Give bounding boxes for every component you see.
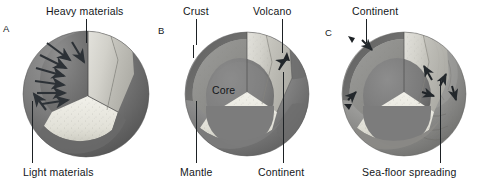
earth-evolution-figure: A B C Heavy materials Light materials Cr… — [0, 0, 484, 184]
leader-crust-lower — [193, 45, 194, 58]
panel-letter-b: B — [158, 26, 164, 36]
leader-light-materials — [32, 101, 33, 163]
label-heavy-materials: Heavy materials — [46, 5, 124, 17]
leader-continent-b — [283, 72, 284, 163]
panel-c-artwork — [342, 32, 466, 156]
label-continent-c: Continent — [352, 5, 398, 17]
panel-a-artwork — [23, 31, 158, 157]
label-crust: Crust — [183, 5, 209, 17]
leader-mantle — [196, 101, 197, 163]
label-volcano: Volcano — [253, 5, 291, 17]
diagram-artwork — [0, 0, 484, 184]
leader-crust — [196, 19, 197, 45]
label-light-materials: Light materials — [23, 166, 94, 178]
leader-volcano — [282, 19, 283, 53]
leader-sea-floor — [440, 80, 441, 163]
leader-continent-c — [366, 19, 367, 43]
panel-letter-c: C — [325, 28, 332, 38]
label-sea-floor-spreading: Sea-floor spreading — [362, 166, 457, 178]
panel-b-artwork — [185, 32, 318, 159]
leader-heavy-materials — [86, 19, 87, 43]
panel-letter-a: A — [3, 24, 9, 34]
label-mantle: Mantle — [180, 166, 212, 178]
label-core: Core — [212, 84, 235, 96]
label-continent-b: Continent — [258, 166, 304, 178]
